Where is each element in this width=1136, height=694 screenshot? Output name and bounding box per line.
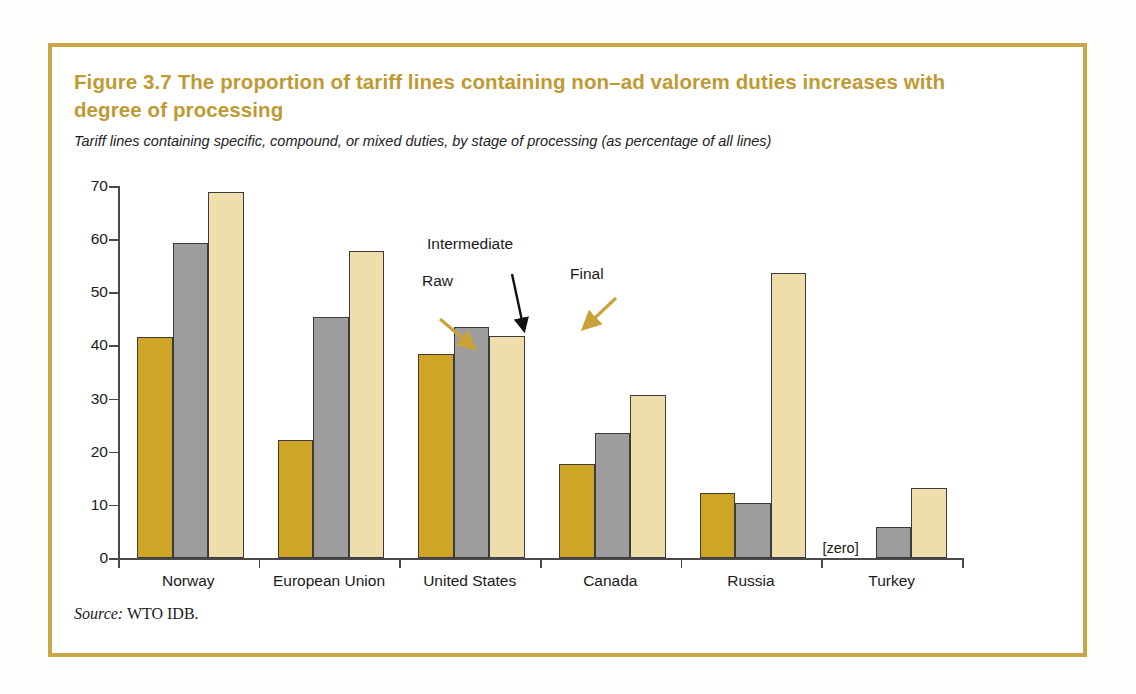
bar-european-union-final <box>349 251 385 558</box>
annotation-intermediate: Intermediate <box>427 235 513 253</box>
y-axis-tick <box>109 186 118 188</box>
y-axis-tick <box>109 345 118 347</box>
bar-group-european-union <box>278 186 385 558</box>
y-axis-tick <box>109 292 118 294</box>
bar-russia-final <box>771 273 807 558</box>
source-value: WTO IDB. <box>123 605 198 622</box>
source-label: Source: <box>74 605 123 622</box>
bar-united-states-final <box>489 336 525 558</box>
x-axis-category-united-states: United States <box>423 572 516 590</box>
y-axis-tick-label: 70 <box>74 177 108 195</box>
bar-turkey-final <box>911 488 947 558</box>
y-axis-tick <box>109 505 118 507</box>
bar-russia-intermediate <box>735 503 771 558</box>
bar-canada-raw <box>559 464 595 558</box>
bar-group-norway <box>137 186 244 558</box>
bar-european-union-raw <box>278 440 314 559</box>
source-note: Source: WTO IDB. <box>74 605 199 623</box>
x-axis-tick-origin <box>118 558 120 568</box>
x-axis-category-canada: Canada <box>583 572 637 590</box>
figure-subtitle: Tariff lines containing specific, compou… <box>74 133 1014 149</box>
x-axis-tick <box>540 558 542 568</box>
bar-european-union-intermediate <box>313 317 349 558</box>
bar-canada-intermediate <box>595 433 631 558</box>
y-axis-tick-label: 50 <box>74 283 108 301</box>
plot-area: [zero] <box>118 186 962 558</box>
y-axis-tick-label: 40 <box>74 336 108 354</box>
bar-russia-raw <box>700 493 736 558</box>
figure-title: Figure 3.7 The proportion of tariff line… <box>74 68 1014 125</box>
zero-label-turkey: [zero] <box>822 540 858 556</box>
bar-united-states-intermediate <box>454 327 490 558</box>
annotation-raw: Raw <box>422 272 453 290</box>
figure-page: Figure 3.7 The proportion of tariff line… <box>0 0 1136 694</box>
x-axis-tick <box>259 558 261 568</box>
bar-norway-intermediate <box>173 243 209 558</box>
x-axis-tick <box>399 558 401 568</box>
bar-norway-raw <box>137 337 173 558</box>
x-axis-tick <box>681 558 683 568</box>
x-axis-category-norway: Norway <box>162 572 215 590</box>
y-axis-tick <box>109 399 118 401</box>
x-axis-category-russia: Russia <box>727 572 774 590</box>
bar-group-russia <box>700 186 807 558</box>
bar-group-canada <box>559 186 666 558</box>
y-axis-tick-label: 10 <box>74 496 108 514</box>
y-axis-tick <box>109 452 118 454</box>
y-axis-tick <box>109 239 118 241</box>
y-axis-tick-label: 20 <box>74 443 108 461</box>
y-axis-tick-label: 30 <box>74 390 108 408</box>
bar-norway-final <box>208 192 244 558</box>
x-axis-category-turkey: Turkey <box>868 572 915 590</box>
y-axis-tick <box>109 558 118 560</box>
bar-united-states-raw <box>418 354 454 558</box>
x-axis-category-european-union: European Union <box>273 572 385 590</box>
x-axis-tick <box>962 558 964 568</box>
annotation-final: Final <box>570 265 604 283</box>
x-axis-tick <box>821 558 823 568</box>
bar-turkey-intermediate <box>876 527 912 558</box>
bar-group-turkey: [zero] <box>840 186 947 558</box>
bar-canada-final <box>630 395 666 558</box>
y-axis-tick-label: 60 <box>74 230 108 248</box>
y-axis-labels: 010203040506070 <box>74 186 108 558</box>
y-axis-tick-label: 0 <box>74 549 108 567</box>
